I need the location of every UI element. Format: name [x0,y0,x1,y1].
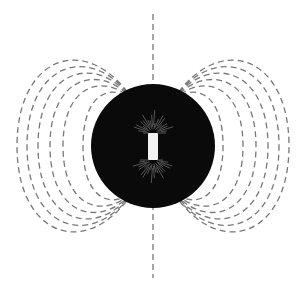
field-diagram [0,0,303,300]
diagram-canvas [0,0,303,300]
bar-magnet [148,133,158,160]
